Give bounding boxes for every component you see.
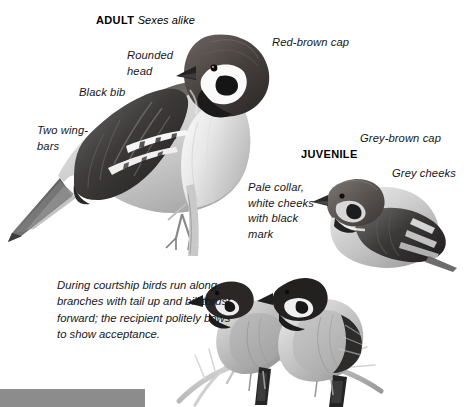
juvenile-heading: JUVENILE <box>301 148 358 160</box>
courtship-caption: During courtship birds run along branche… <box>57 277 237 342</box>
juvenile-heading-title: JUVENILE <box>301 148 358 160</box>
label-two-wing-bars: Two wing- bars <box>37 123 88 154</box>
adult-heading: ADULT Sexes alike <box>96 14 195 26</box>
label-grey-brown-cap: Grey-brown cap <box>360 131 441 147</box>
label-rounded-head: Rounded head <box>127 48 173 79</box>
label-grey-cheeks: Grey cheeks <box>392 166 456 182</box>
bottom-color-bar <box>0 389 145 407</box>
label-red-brown-cap: Red-brown cap <box>272 35 349 51</box>
adult-heading-title: ADULT <box>96 14 134 26</box>
label-pale-collar: Pale collar, white cheeks with black mar… <box>248 180 314 242</box>
adult-heading-subtitle: Sexes alike <box>138 14 195 26</box>
field-guide-page: ADULT Sexes alike Red-brown cap Rounded … <box>0 0 470 407</box>
label-black-bib: Black bib <box>79 85 125 101</box>
